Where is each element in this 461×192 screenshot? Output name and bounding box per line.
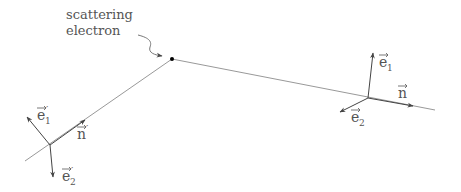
svg-text:2: 2 <box>70 177 76 187</box>
label-scattering: scattering <box>66 7 133 22</box>
svg-text:1: 1 <box>387 63 393 73</box>
outgoing-beam-line <box>172 59 435 110</box>
e2-prime-arrow <box>50 145 53 177</box>
n-prime-label: n ′ <box>77 123 89 142</box>
svg-text:′: ′ <box>46 104 49 115</box>
e2-label: e 2 <box>351 108 365 128</box>
e1-arrow <box>368 53 373 98</box>
svg-text:′: ′ <box>86 123 89 134</box>
svg-text:1: 1 <box>45 116 51 126</box>
pointer-squiggle <box>138 35 162 56</box>
label-electron: electron <box>66 23 121 38</box>
scattering-diagram: scattering electron e 1 ′ n ′ e 2 ′ e 1 … <box>0 0 461 192</box>
svg-text:′: ′ <box>71 165 74 176</box>
svg-text:2: 2 <box>359 118 365 128</box>
e1-prime-label: e 1 ′ <box>37 104 51 126</box>
e2-prime-label: e 2 ′ <box>62 165 76 187</box>
scattering-point <box>170 57 174 61</box>
n-label: n <box>398 84 407 101</box>
e1-label: e 1 <box>379 53 393 73</box>
